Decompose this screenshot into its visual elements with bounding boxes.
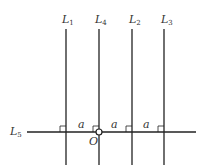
label-a2: a bbox=[111, 118, 118, 131]
right-angle-mark bbox=[158, 126, 164, 132]
right-angle-mark bbox=[60, 126, 66, 132]
lines-diagram: L1 L4 L2 L3 L5 a a a O bbox=[0, 0, 208, 165]
label-l4: L4 bbox=[94, 13, 107, 27]
diagram: L1 L4 L2 L3 L5 a a a O bbox=[0, 0, 208, 165]
label-origin: O bbox=[89, 135, 98, 148]
label-l2: L2 bbox=[128, 13, 141, 27]
label-a3: a bbox=[143, 118, 150, 131]
label-a1: a bbox=[78, 118, 85, 131]
label-l3: L3 bbox=[160, 13, 173, 27]
label-l5: L5 bbox=[9, 125, 22, 139]
right-angle-mark bbox=[126, 126, 132, 132]
label-l1: L1 bbox=[61, 13, 74, 27]
